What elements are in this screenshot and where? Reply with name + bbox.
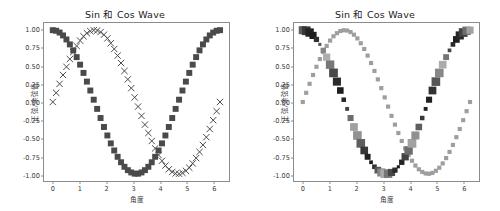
data-point — [91, 97, 97, 103]
y-tick-mark — [291, 139, 294, 140]
data-point — [379, 86, 383, 90]
data-point — [369, 61, 373, 65]
data-point — [166, 166, 172, 172]
data-point — [301, 100, 305, 104]
y-tick-label: -0.75 — [273, 154, 290, 162]
data-point — [63, 64, 69, 70]
data-point — [114, 52, 120, 58]
x-axis-label: 角度 — [380, 194, 394, 204]
x-tick-label: 0 — [301, 185, 305, 193]
plot-canvas — [44, 23, 229, 181]
x-tick-mark — [464, 181, 465, 184]
data-point — [193, 54, 199, 60]
x-tick-mark — [160, 181, 161, 184]
y-tick-label: -0.25 — [23, 117, 40, 125]
data-point — [149, 159, 155, 165]
x-axis-label: 角度 — [130, 194, 144, 204]
data-point — [393, 123, 397, 127]
data-point — [408, 139, 417, 148]
data-point — [386, 105, 390, 109]
data-point — [104, 133, 110, 139]
data-point — [416, 124, 423, 131]
x-tick-label: 1 — [328, 185, 332, 193]
screenshot-root: Sin 和 Cos Wave 正弦/余弦值 角度 1.000.750.500.2… — [0, 0, 500, 211]
data-point — [376, 77, 380, 81]
data-point — [389, 114, 393, 118]
data-point — [180, 88, 186, 94]
data-point — [125, 76, 131, 82]
x-tick-mark — [133, 181, 134, 184]
data-point — [437, 166, 441, 170]
plot-area: 正弦/余弦值 角度 1.000.750.500.250.00-0.25-0.50… — [43, 22, 230, 182]
x-tick-label: 1 — [78, 185, 82, 193]
y-tick-mark — [291, 175, 294, 176]
data-point — [333, 78, 341, 86]
data-point — [67, 41, 73, 47]
data-point — [366, 54, 370, 58]
data-point — [353, 131, 362, 140]
data-point — [439, 61, 447, 69]
data-point — [341, 97, 346, 102]
chart-figure-1: Sin 和 Cos Wave 正弦/余弦值 角度 1.000.750.500.2… — [0, 0, 250, 211]
y-tick-label: -1.00 — [273, 172, 290, 180]
data-point — [435, 69, 444, 78]
data-point — [111, 46, 117, 52]
x-tick-label: 4 — [158, 185, 162, 193]
data-point — [420, 116, 424, 120]
y-tick-label: 0.00 — [275, 99, 290, 107]
y-tick-mark — [291, 66, 294, 67]
y-tick-label: 0.00 — [25, 99, 40, 107]
data-point — [325, 44, 329, 48]
x-tick-label: 5 — [185, 185, 189, 193]
data-point — [196, 149, 202, 155]
data-point — [53, 90, 59, 96]
data-point — [365, 154, 371, 160]
data-point — [397, 165, 400, 168]
x-tick-label: 6 — [212, 185, 216, 193]
data-point — [413, 163, 417, 167]
data-point — [424, 107, 428, 111]
data-point — [348, 115, 354, 121]
data-point — [104, 35, 110, 41]
y-tick-label: 1.00 — [275, 26, 290, 34]
y-tick-label: -0.50 — [23, 135, 40, 143]
data-point — [447, 150, 451, 154]
x-tick-label: 3 — [131, 185, 135, 193]
data-point — [77, 37, 83, 43]
data-point — [115, 154, 121, 160]
y-tick-mark — [41, 157, 44, 158]
y-tick-label: 1.00 — [25, 26, 40, 34]
data-point — [396, 131, 400, 135]
data-point — [213, 108, 219, 114]
data-point — [186, 165, 192, 171]
y-tick-label: -0.50 — [273, 135, 290, 143]
y-tick-mark — [41, 30, 44, 31]
data-point — [372, 69, 376, 73]
x-tick-label: 3 — [381, 185, 385, 193]
x-tick-mark — [329, 181, 330, 184]
data-point — [321, 48, 326, 53]
y-tick-mark — [291, 84, 294, 85]
data-point — [383, 95, 387, 99]
x-tick-label: 2 — [355, 185, 359, 193]
data-point — [197, 47, 203, 53]
data-point — [311, 73, 315, 77]
data-point — [369, 160, 373, 164]
data-point — [458, 127, 462, 131]
data-point — [448, 49, 452, 53]
data-point — [94, 106, 100, 112]
data-point — [314, 65, 318, 69]
data-point — [203, 134, 209, 140]
x-tick-mark — [214, 181, 215, 184]
data-point — [186, 70, 192, 76]
data-point — [432, 77, 441, 86]
data-point — [169, 115, 175, 121]
data-point — [217, 99, 223, 105]
x-tick-mark — [187, 181, 188, 184]
y-tick-mark — [291, 121, 294, 122]
y-tick-mark — [41, 84, 44, 85]
data-point — [173, 106, 179, 112]
data-point — [149, 138, 155, 144]
y-tick-label: 0.75 — [25, 44, 40, 52]
data-point — [56, 81, 62, 87]
